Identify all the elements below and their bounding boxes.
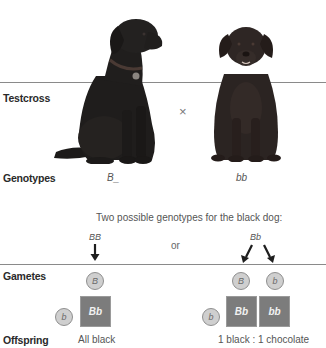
down-arrow-icon <box>90 244 100 262</box>
heterozygous-genotype-label: Bb <box>250 232 261 242</box>
black-dog-image <box>48 14 168 164</box>
gametes-divider <box>0 264 326 265</box>
gamete-circle: b <box>55 308 73 326</box>
homozygous-genotype-label: BB <box>89 232 101 242</box>
chocolate-dog-image <box>206 22 286 162</box>
row-label-genotypes: Genotypes <box>3 172 55 184</box>
gamete-circle: B <box>232 272 250 290</box>
row-label-testcross: Testcross <box>3 92 50 104</box>
row-label-gametes: Gametes <box>3 270 46 282</box>
offspring-cell: Bb <box>80 296 111 327</box>
gamete-circle: B <box>86 272 104 290</box>
chocolate-dog-genotype: bb <box>236 172 247 183</box>
diverging-arrows-icon <box>238 244 278 264</box>
offspring-cell: bb <box>259 296 290 327</box>
or-label: or <box>171 240 180 251</box>
gamete-circle: b <box>202 308 220 326</box>
cross-symbol: × <box>179 104 187 119</box>
possible-genotypes-caption: Two possible genotypes for the black dog… <box>96 212 282 223</box>
gamete-circle: b <box>266 272 284 290</box>
black-dog-genotype: B_ <box>107 172 119 183</box>
row-label-offspring: Offspring <box>3 334 48 346</box>
homozygous-result: All black <box>78 334 115 345</box>
offspring-cell: Bb <box>226 296 257 327</box>
heterozygous-result: 1 black : 1 chocolate <box>218 334 309 345</box>
